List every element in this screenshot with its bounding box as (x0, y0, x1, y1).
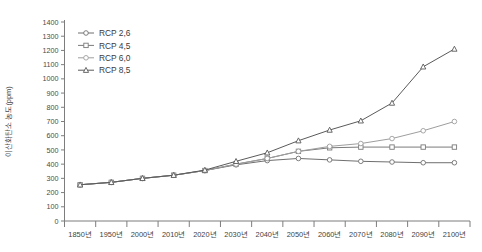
data-point-rcp-2-6 (327, 158, 332, 163)
y-tick-label: 1400 (43, 18, 59, 27)
legend-label-0: RCP 2,6 (99, 28, 131, 38)
data-point-rcp-6-0 (296, 149, 301, 154)
x-tick-label: 2080년 (380, 230, 403, 239)
legend-label-3: RCP 8,5 (99, 65, 131, 75)
x-tick-label: 1950년 (100, 230, 123, 239)
y-tick-label: 1200 (43, 46, 59, 55)
legend-marker-0 (84, 31, 89, 36)
x-tick-label: 2060년 (318, 230, 341, 239)
data-point-rcp-6-0 (390, 136, 395, 141)
y-tick-label: 400 (47, 160, 59, 169)
series-line-rcp-8-5 (80, 49, 454, 185)
data-point-rcp-6-0 (327, 144, 332, 149)
x-tick-label: 2020년 (193, 230, 216, 239)
co2-concentration-chart: 0100200300400500600700800900100011001200… (0, 0, 482, 252)
data-point-rcp-6-0 (421, 128, 426, 133)
y-tick-label: 500 (47, 146, 59, 155)
y-tick-label: 600 (47, 131, 59, 140)
data-point-rcp-2-6 (359, 159, 364, 164)
legend-label-1: RCP 4,5 (99, 41, 131, 51)
data-point-rcp-8-5 (421, 64, 426, 69)
data-point-rcp-4-5 (421, 145, 425, 149)
data-point-rcp-2-6 (452, 160, 457, 165)
x-tick-label: 2070년 (349, 230, 372, 239)
y-tick-label: 300 (47, 174, 59, 183)
data-point-rcp-6-0 (265, 156, 270, 161)
x-tick-label: 2030년 (224, 230, 247, 239)
x-tick-label: 2090년 (411, 230, 434, 239)
x-tick-label: 2100년 (443, 230, 466, 239)
legend-marker-2 (84, 56, 89, 61)
y-tick-label: 800 (47, 103, 59, 112)
legend-marker-1 (84, 43, 88, 47)
data-point-rcp-8-5 (358, 118, 363, 123)
data-point-rcp-2-6 (296, 156, 301, 161)
data-point-rcp-6-0 (452, 119, 457, 124)
x-tick-label: 2010년 (162, 230, 185, 239)
x-tick-label: 2040년 (256, 230, 279, 239)
y-tick-label: 700 (47, 117, 59, 126)
x-tick-label: 2050년 (287, 230, 310, 239)
y-tick-label: 0 (55, 217, 59, 226)
x-tick-label: 1850년 (68, 230, 91, 239)
x-tick-label: 2000년 (131, 230, 154, 239)
y-tick-label: 1300 (43, 32, 59, 41)
data-point-rcp-6-0 (359, 141, 364, 146)
y-axis-title: 이산화탄소 농도(ppm) (4, 86, 13, 156)
y-tick-label: 200 (47, 188, 59, 197)
data-point-rcp-8-5 (452, 46, 457, 51)
data-point-rcp-4-5 (452, 145, 456, 149)
y-tick-label: 100 (47, 202, 59, 211)
y-tick-label: 1100 (43, 60, 58, 69)
data-point-rcp-2-6 (390, 160, 395, 165)
chart-canvas: 0100200300400500600700800900100011001200… (0, 0, 482, 252)
data-point-rcp-4-5 (390, 145, 394, 149)
y-tick-label: 1000 (43, 74, 59, 83)
legend-label-2: RCP 6,0 (99, 53, 131, 63)
data-point-rcp-2-6 (421, 160, 426, 165)
y-tick-label: 900 (47, 89, 59, 98)
